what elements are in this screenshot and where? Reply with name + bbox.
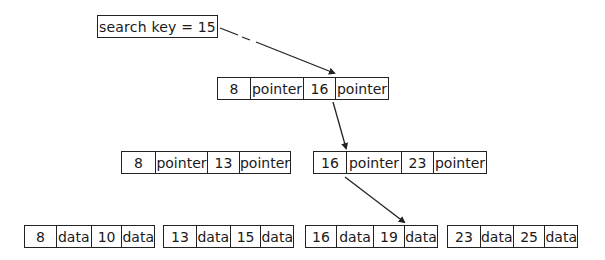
leaf-node-1: 8 data 10 data (24, 225, 155, 248)
arrow-right-internal-to-leaf-3 (345, 177, 404, 222)
internal-left-key-1: 8 (122, 152, 155, 173)
leaf-3-data-2: data (404, 226, 437, 247)
leaf-2-key-1: 13 (164, 226, 196, 247)
leaf-node-3: 16 data 19 data (305, 225, 438, 248)
leaf-2-data-1: data (196, 226, 230, 247)
leaf-4-key-2: 25 (513, 226, 545, 247)
internal-node-right: 16 pointer 23 pointer (313, 151, 487, 174)
internal-right-pointer-2: pointer (433, 152, 486, 173)
internal-left-key-2: 13 (207, 152, 239, 173)
arrows-layer (0, 0, 605, 260)
search-key-label: search key = 15 (99, 19, 216, 35)
leaf-3-key-2: 19 (373, 226, 404, 247)
internal-right-key-1: 16 (314, 152, 346, 173)
internal-node-left: 8 pointer 13 pointer (121, 151, 291, 174)
leaf-4-key-1: 23 (448, 226, 480, 247)
root-pointer-2: pointer (335, 78, 388, 99)
root-key-1: 8 (218, 78, 250, 99)
root-key-2: 16 (303, 78, 335, 99)
leaf-1-data-1: data (56, 226, 91, 247)
leaf-4-data-1: data (480, 226, 513, 247)
root-node: 8 pointer 16 pointer (217, 77, 389, 100)
leaf-3-key-1: 16 (306, 226, 336, 247)
leaf-1-key-1: 8 (25, 226, 56, 247)
arrow-root-to-right-internal (333, 102, 346, 148)
leaf-3-data-1: data (336, 226, 373, 247)
search-key-box: search key = 15 (97, 15, 218, 38)
leaf-node-2: 13 data 15 data (163, 225, 294, 248)
internal-right-key-2: 23 (401, 152, 433, 173)
leaf-2-key-2: 15 (230, 226, 261, 247)
arrow-search-to-root (220, 28, 334, 73)
internal-right-pointer-1: pointer (346, 152, 401, 173)
leaf-1-data-2: data (121, 226, 154, 247)
leaf-node-4: 23 data 25 data (447, 225, 578, 248)
internal-left-pointer-2: pointer (239, 152, 290, 173)
root-pointer-1: pointer (250, 78, 303, 99)
internal-left-pointer-1: pointer (155, 152, 207, 173)
leaf-1-key-2: 10 (91, 226, 122, 247)
leaf-4-data-2: data (544, 226, 577, 247)
leaf-2-data-2: data (260, 226, 293, 247)
